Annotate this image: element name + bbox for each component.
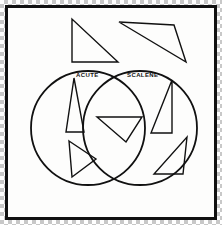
right-triangle-top-left xyxy=(72,19,118,62)
obtuse-triangle-top-right xyxy=(119,22,186,62)
tall-acute-triangle xyxy=(66,78,84,132)
intersection-triangle xyxy=(97,117,142,142)
right-triangle-scalene xyxy=(151,80,172,133)
venn-circle-right xyxy=(83,71,197,185)
venn-diagram-figure: ACUTESCALENE xyxy=(0,0,222,225)
venn-circle-left xyxy=(31,71,145,185)
diagram-canvas: ACUTESCALENE xyxy=(0,0,222,225)
triangle-shapes-layer xyxy=(66,19,187,177)
venn-circle-left-label: ACUTE xyxy=(76,72,99,78)
thin-triangle-scalene xyxy=(154,137,187,174)
venn-circle-right-label: SCALENE xyxy=(127,72,158,78)
